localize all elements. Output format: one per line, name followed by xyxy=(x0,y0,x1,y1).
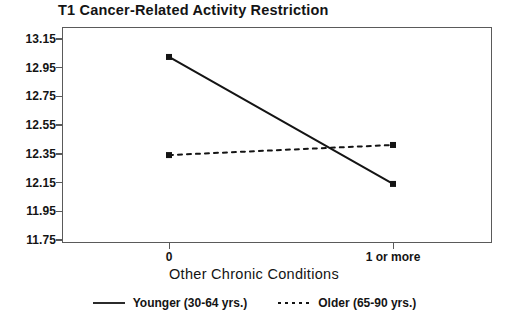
x-tick-label: 0 xyxy=(166,250,173,264)
solid-line-icon xyxy=(92,298,126,308)
marker-older-0 xyxy=(166,152,172,158)
legend-label-younger: Younger (30-64 yrs.) xyxy=(133,296,247,310)
chart-figure: T1 Cancer-Related Activity Restriction 1… xyxy=(0,0,508,326)
y-tick-label: 12.95 xyxy=(2,61,56,75)
y-tick-label: 13.15 xyxy=(2,32,56,46)
chart-title: T1 Cancer-Related Activity Restriction xyxy=(58,2,329,18)
legend-item-older: Older (65-90 yrs.) xyxy=(277,296,416,310)
x-tick-mark xyxy=(393,243,395,249)
y-tick-label: 11.95 xyxy=(2,204,56,218)
y-tick-label: 12.55 xyxy=(2,118,56,132)
plot-lines xyxy=(62,27,492,243)
legend-item-younger: Younger (30-64 yrs.) xyxy=(92,296,247,310)
y-tick-label: 12.15 xyxy=(2,176,56,190)
marker-younger-1 xyxy=(390,181,396,187)
series-line-older xyxy=(169,145,393,155)
legend-label-older: Older (65-90 yrs.) xyxy=(318,296,416,310)
marker-older-1 xyxy=(390,142,396,148)
x-axis-title: Other Chronic Conditions xyxy=(0,266,508,282)
series-line-younger xyxy=(169,57,393,184)
chart-legend: Younger (30-64 yrs.) Older (65-90 yrs.) xyxy=(0,296,508,310)
marker-younger-0 xyxy=(166,54,172,60)
y-tick-label: 12.75 xyxy=(2,89,56,103)
y-tick-label: 12.35 xyxy=(2,147,56,161)
dotted-line-icon xyxy=(277,298,311,308)
y-tick-label: 11.75 xyxy=(2,233,56,247)
x-tick-mark xyxy=(169,243,171,249)
x-tick-label: 1 or more xyxy=(366,250,421,264)
